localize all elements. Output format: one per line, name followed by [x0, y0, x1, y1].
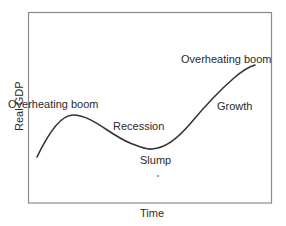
label-growth: Growth	[217, 100, 252, 112]
label-overheating-boom-right: Overheating boom	[181, 53, 272, 65]
x-axis-label: Time	[140, 207, 164, 219]
label-slump: Slump	[140, 154, 171, 166]
stray-dot	[157, 175, 159, 177]
y-axis-label: Real GDP	[13, 81, 25, 131]
business-cycle-diagram: Overheating boom Recession Slump Growth …	[0, 0, 286, 226]
label-recession: Recession	[113, 120, 164, 132]
